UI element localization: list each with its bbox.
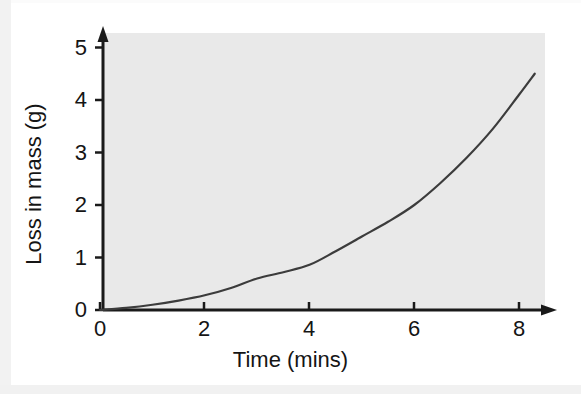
- y-tick-label-0: 0: [61, 299, 87, 321]
- chart-figure: 0 2 4 6 8 0 1 2 3 4 5 Time (mins) Loss i…: [0, 0, 581, 394]
- x-axis-title: Time (mins): [0, 347, 581, 373]
- data-curve: [100, 74, 535, 310]
- x-tick-label-1: 2: [198, 318, 210, 340]
- x-tick-label-0: 0: [94, 318, 106, 340]
- y-axis: [98, 26, 109, 310]
- y-tick-label-3: 3: [61, 142, 87, 164]
- x-tick-label-3: 6: [408, 318, 420, 340]
- y-tick-label-4: 4: [61, 89, 87, 111]
- y-tick-label-2: 2: [61, 194, 87, 216]
- y-tick-label-5: 5: [61, 37, 87, 59]
- y-tick-label-1: 1: [61, 247, 87, 269]
- x-axis: [103, 305, 557, 316]
- x-tick-label-4: 8: [513, 318, 525, 340]
- y-axis-title: Loss in mass (g): [21, 64, 47, 304]
- chart-canvas: [0, 0, 581, 394]
- x-tick-label-2: 4: [303, 318, 315, 340]
